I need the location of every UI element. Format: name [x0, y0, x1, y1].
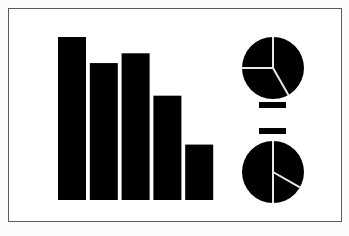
bar-1: [58, 37, 86, 200]
equals-bar-top: [259, 102, 286, 108]
bar-5: [185, 145, 213, 200]
pie-chart-bottom: [242, 141, 304, 203]
bar-4: [153, 96, 181, 200]
bar-chart: [58, 37, 213, 200]
equals-sign: [259, 102, 286, 134]
bar-3: [122, 53, 150, 200]
equals-bar-bottom: [259, 128, 286, 134]
pie-chart-top: [242, 37, 304, 99]
bar-2: [90, 63, 118, 200]
chart-canvas: [0, 0, 349, 236]
